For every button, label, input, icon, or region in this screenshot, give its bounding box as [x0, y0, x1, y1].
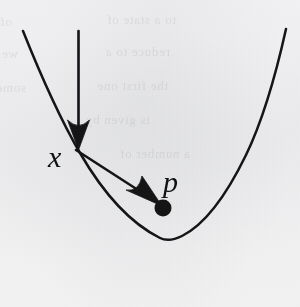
point-p-label: p	[163, 167, 178, 197]
point-p-marker-group	[155, 200, 172, 217]
figure-root: of the constant to a state of we have th…	[0, 0, 300, 307]
point-x-label: x	[48, 142, 61, 172]
diagram-canvas	[0, 0, 300, 307]
point-p-dot	[155, 200, 172, 217]
canvas-background	[0, 0, 300, 307]
